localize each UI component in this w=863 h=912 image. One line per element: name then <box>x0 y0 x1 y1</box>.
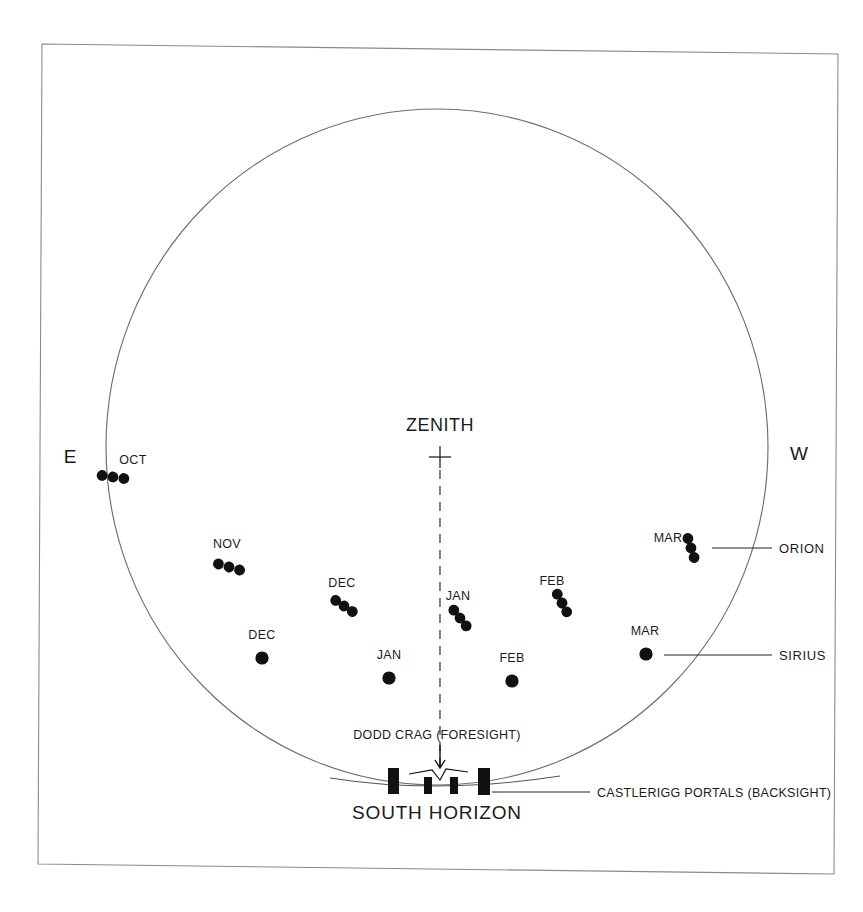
annotation-dodd-crag: DODD CRAG (FORESIGHT) <box>353 728 520 742</box>
zenith-cross-icon <box>429 446 451 468</box>
sirius-star-mar <box>639 647 652 660</box>
month-label-orion-dec: DEC <box>328 576 355 590</box>
south-horizon-label: SOUTH HORIZON <box>352 802 522 823</box>
month-label-sirius-feb: FEB <box>499 651 524 665</box>
month-label-orion-oct: OCT <box>119 453 146 467</box>
dodd-crag-arrow-icon <box>435 745 445 768</box>
portal-stone-1 <box>388 768 399 794</box>
orion-belt-feb <box>550 587 574 619</box>
zenith-label: ZENITH <box>406 415 474 435</box>
portal-stone-2 <box>424 777 432 794</box>
orion-belt-mar <box>681 532 701 565</box>
page-frame-border <box>38 44 838 874</box>
sky-diagram-svg: E W ZENITH OCT NOV DEC JAN FEB MAR DEC J… <box>0 0 863 912</box>
month-label-orion-jan: JAN <box>446 589 471 603</box>
orion-belt-nov <box>212 557 247 576</box>
month-label-orion-feb: FEB <box>539 574 564 588</box>
month-label-sirius-mar: MAR <box>631 624 660 638</box>
annotation-orion: ORION <box>779 541 825 556</box>
sirius-star-dec <box>255 651 268 664</box>
month-label-orion-nov: NOV <box>213 537 241 551</box>
annotation-castlerigg-portals: CASTLERIGG PORTALS (BACKSIGHT) <box>597 786 831 800</box>
portal-stone-3 <box>450 777 458 794</box>
portal-stone-4 <box>478 768 490 795</box>
orion-belt-dec <box>328 593 360 619</box>
dodd-crag-notch-profile <box>409 769 468 780</box>
month-label-orion-mar: MAR <box>654 531 683 545</box>
sirius-star-jan <box>382 671 395 684</box>
orion-belt-jan <box>446 603 473 634</box>
orion-belt-oct <box>96 469 130 484</box>
sky-diagram-root: E W ZENITH OCT NOV DEC JAN FEB MAR DEC J… <box>0 0 863 912</box>
sky-horizon-circle <box>106 109 768 785</box>
month-label-sirius-jan: JAN <box>377 648 402 662</box>
month-label-sirius-dec: DEC <box>248 628 275 642</box>
annotation-sirius: SIRIUS <box>779 648 826 663</box>
sirius-star-feb <box>505 674 518 687</box>
cardinal-label-west: W <box>790 443 808 464</box>
cardinal-label-east: E <box>64 446 77 467</box>
